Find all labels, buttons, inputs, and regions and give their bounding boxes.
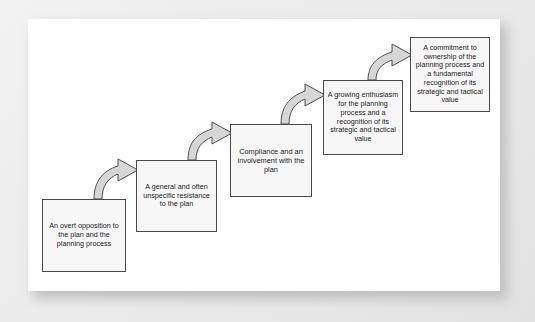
stage-box-5[interactable]: A commitment to ownership of the plannin…	[410, 37, 490, 112]
connector-arrow-4	[368, 44, 412, 80]
connector-arrow-2	[188, 122, 232, 160]
stage-label-2: A general and often unspecific resistanc…	[137, 183, 216, 209]
connector-arrow-3	[281, 84, 325, 124]
stage-box-4[interactable]: A growing enthusiasm for the planning pr…	[323, 80, 403, 155]
connector-arrow-1	[94, 159, 138, 199]
stage-label-4: A growing enthusiasm for the planning pr…	[324, 91, 402, 144]
stage-box-3[interactable]: Compliance and an involvement with the p…	[230, 124, 312, 197]
stage-label-3: Compliance and an involvement with the p…	[231, 147, 311, 174]
stage-box-1[interactable]: An overt opposition to the plan and the …	[42, 199, 126, 272]
diagram-panel: An overt opposition to the plan and the …	[28, 19, 500, 291]
stage-box-2[interactable]: A general and often unspecific resistanc…	[136, 160, 217, 232]
stage-label-1: An overt opposition to the plan and the …	[43, 222, 125, 248]
stage-label-5: A commitment to ownership of the plannin…	[411, 44, 489, 105]
